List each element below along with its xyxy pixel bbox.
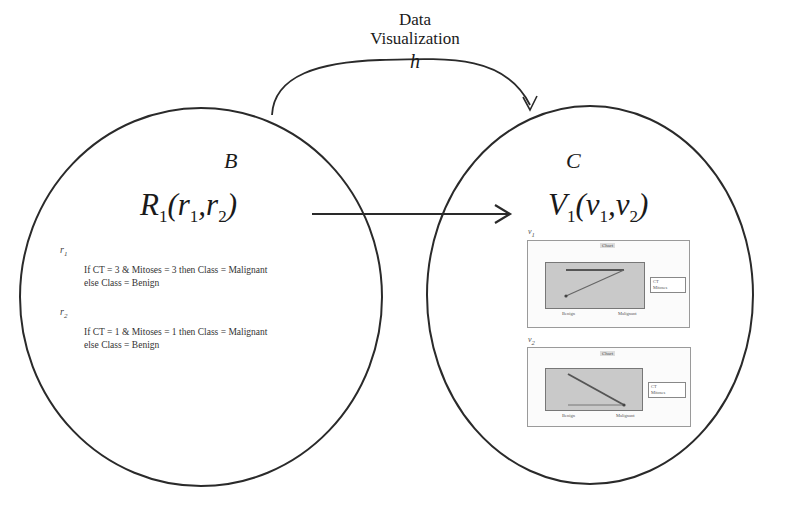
chart-title: Chart — [600, 243, 615, 248]
x-tick-malignant: Malignant — [618, 311, 637, 316]
arg-2-index: 2 — [630, 207, 639, 226]
paren-close: ) — [638, 187, 648, 222]
arc-label-line2: Visualization — [360, 29, 470, 48]
chart-lines — [546, 263, 644, 308]
chart-tag-v1: v1 — [528, 227, 535, 238]
rule-r1-line2: else Class = Benign — [84, 277, 267, 290]
rule-r2: If CT = 1 & Mitoses = 1 then Class = Mal… — [84, 326, 267, 352]
chart-legend: CT Mitoses — [648, 382, 686, 398]
chart-tag-idx: 2 — [532, 339, 535, 346]
paren-close: ) — [227, 187, 237, 222]
comma: , — [198, 187, 206, 222]
arg-2: v — [616, 187, 630, 222]
paren-open: ( — [575, 187, 585, 222]
comma: , — [608, 187, 616, 222]
chart-tag-v2: v2 — [528, 335, 535, 346]
x-tick-benign: Benign — [562, 413, 575, 418]
paren-open: ( — [167, 187, 177, 222]
set-c-label: C — [566, 148, 581, 174]
rule-r1-line1: If CT = 3 & Mitoses = 3 then Class = Mal… — [84, 264, 267, 277]
chart-title: Chart — [600, 351, 615, 356]
rule-tag-idx: 2 — [64, 312, 68, 320]
set-c-formula: V1(v1,v2) — [548, 187, 648, 227]
arg-2: r — [206, 187, 218, 222]
rule-r2-line1: If CT = 1 & Mitoses = 1 then Class = Mal… — [84, 326, 267, 339]
mini-chart-v2: Chart Benign Malignant CT Mitoses — [527, 347, 691, 427]
mini-chart-v1: Chart Benign Malignant CT Mitoses — [527, 240, 690, 328]
chart-lines — [546, 369, 642, 410]
data-point — [622, 403, 625, 406]
series-mitoses-line — [566, 270, 624, 296]
set-b-formula: R1(r1,r2) — [140, 187, 237, 227]
x-tick-malignant: Malignant — [616, 413, 635, 418]
legend-mitoses: Mitoses — [653, 285, 683, 291]
formula-name: R — [140, 187, 159, 222]
plot-area — [545, 262, 645, 309]
rule-tag-r1: r1 — [60, 244, 67, 258]
arg-1: v — [586, 187, 600, 222]
rule-r2-line2: else Class = Benign — [84, 339, 267, 352]
data-point — [564, 294, 567, 297]
arc-label-line1: Data — [360, 10, 470, 29]
arg-2-index: 2 — [218, 207, 227, 226]
arc-function-symbol: h — [360, 52, 470, 71]
legend-mitoses: Mitoses — [651, 390, 683, 396]
arg-1-index: 1 — [600, 207, 609, 226]
set-b-ellipse — [20, 108, 382, 486]
chart-legend: CT Mitoses — [650, 277, 686, 293]
plot-area — [545, 368, 643, 411]
chart-tag-idx: 1 — [532, 231, 535, 238]
rule-tag-r2: r2 — [60, 306, 67, 320]
rule-tag-idx: 1 — [64, 250, 68, 258]
set-b-label: B — [224, 148, 237, 174]
arc-label: Data Visualization h — [360, 10, 470, 71]
rule-r1: If CT = 3 & Mitoses = 3 then Class = Mal… — [84, 264, 267, 290]
x-tick-benign: Benign — [562, 311, 575, 316]
series-ct-line — [568, 374, 624, 405]
formula-name: V — [548, 187, 567, 222]
arg-1: r — [178, 187, 190, 222]
